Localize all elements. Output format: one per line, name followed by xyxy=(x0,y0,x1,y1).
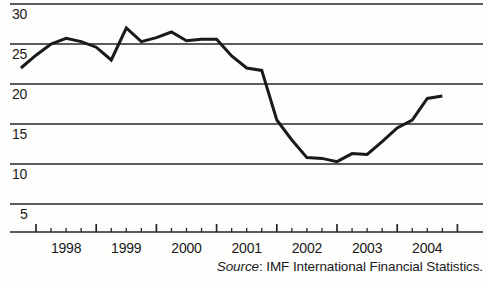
source-body: : IMF International Financial Statistics… xyxy=(259,259,483,274)
x-tick-label-2002: 2002 xyxy=(277,241,337,255)
x-tick-label-2000: 2000 xyxy=(157,241,217,255)
x-tick-label-2004: 2004 xyxy=(397,241,457,255)
y-tick-label-30: 30 xyxy=(12,7,27,21)
y-tick-label-10: 10 xyxy=(12,167,27,181)
x-tick-label-1998: 1998 xyxy=(36,241,96,255)
x-tick-label-2001: 2001 xyxy=(217,241,277,255)
source-note: Source: IMF International Financial Stat… xyxy=(217,259,483,274)
source-label: Source xyxy=(217,259,259,274)
x-tick-label-2003: 2003 xyxy=(337,241,397,255)
y-tick-label-25: 25 xyxy=(12,47,27,61)
data-series-line xyxy=(21,28,442,162)
y-tick-label-20: 20 xyxy=(12,87,27,101)
x-tick-label-1999: 1999 xyxy=(96,241,156,255)
chart-figure: 30252015105 1998199920002001200220032004… xyxy=(0,0,487,281)
series-line-series-1 xyxy=(21,28,442,162)
line-chart-plot xyxy=(0,0,487,281)
gridlines-group xyxy=(10,4,483,204)
y-tick-label-5: 5 xyxy=(20,207,28,221)
y-tick-label-15: 15 xyxy=(12,127,27,141)
x-axis-group xyxy=(10,224,483,232)
